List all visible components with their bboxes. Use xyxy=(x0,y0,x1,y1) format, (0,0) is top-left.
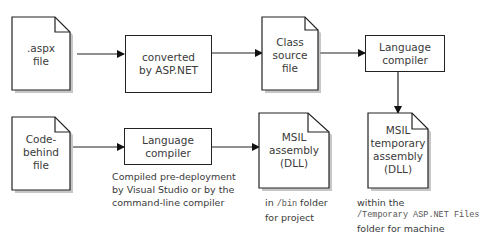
language-compiler-top-node: Language compiler xyxy=(365,35,445,72)
node-label: converted xyxy=(139,51,198,64)
bin-path: /bin xyxy=(277,199,297,209)
node-label: compiler xyxy=(379,54,431,67)
class-source-file-node: Class source file xyxy=(262,17,318,90)
temporary-path: /Temporary ASP.NET Files xyxy=(357,209,479,222)
code-behind-file-node: Code- behind file xyxy=(12,117,70,190)
node-label: MSIL xyxy=(368,124,428,137)
caption-line: within the xyxy=(357,196,479,209)
converted-by-aspnet-node: converted by ASP.NET xyxy=(125,35,212,93)
node-label: by ASP.NET xyxy=(139,64,198,77)
node-label: Class xyxy=(262,36,318,49)
caption-text: folder xyxy=(297,197,328,208)
compiled-caption: Compiled pre-deployment by Visual Studio… xyxy=(112,170,236,209)
node-label: MSIL xyxy=(259,131,329,144)
node-label: Code- xyxy=(12,133,70,146)
node-label: Language xyxy=(379,41,431,54)
node-label: file xyxy=(12,159,70,172)
node-label: temporary xyxy=(368,137,428,150)
aspx-file-node: .aspx file xyxy=(12,17,70,90)
temporary-folder-caption: within the /Temporary ASP.NET Files fold… xyxy=(357,196,479,235)
caption-line: folder for machine xyxy=(357,222,479,235)
msil-assembly-node: MSIL assembly (DLL) xyxy=(259,113,329,188)
node-label: file xyxy=(12,55,70,68)
language-compiler-bottom-node: Language compiler xyxy=(124,128,212,165)
caption-line: command-line compiler xyxy=(112,196,236,209)
caption-text: in xyxy=(265,197,277,208)
caption-line: for project xyxy=(265,211,328,224)
bin-folder-caption: in /bin folder for project xyxy=(265,196,328,224)
node-label: behind xyxy=(12,146,70,159)
node-label: assembly xyxy=(259,144,329,157)
node-label: Language xyxy=(142,134,194,147)
node-label: source xyxy=(262,49,318,62)
caption-line: by Visual Studio or by the xyxy=(112,183,236,196)
node-label: assembly xyxy=(368,150,428,163)
caption-line: Compiled pre-deployment xyxy=(112,170,236,183)
node-label: (DLL) xyxy=(368,163,428,176)
node-label: compiler xyxy=(142,147,194,160)
msil-temporary-assembly-node: MSIL temporary assembly (DLL) xyxy=(368,113,428,188)
node-label: file xyxy=(262,62,318,75)
node-label: (DLL) xyxy=(259,157,329,170)
node-label: .aspx xyxy=(12,42,70,55)
